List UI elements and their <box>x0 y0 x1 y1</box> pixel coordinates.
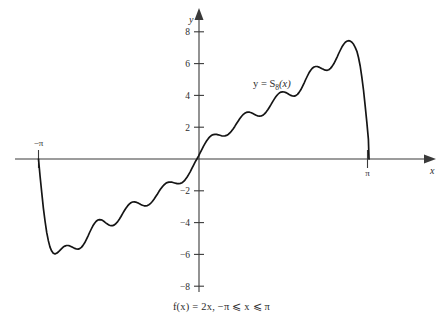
y-tick-label-neg6: −6 <box>180 250 190 260</box>
y-tick-label-neg4: −4 <box>180 218 190 228</box>
y-tick-label-8: 8 <box>185 27 190 37</box>
y-tick-label-2: 2 <box>185 123 190 133</box>
x-axis-label: x <box>429 165 435 176</box>
x-tick-label-pi: π <box>365 168 370 178</box>
curve-label-tail: (x) <box>279 78 291 89</box>
y-axis-arrowhead <box>195 8 204 20</box>
curve-label-head: y = S <box>253 78 275 89</box>
plot-svg: 8 6 4 2 −2 −4 −6 −8 −π π x y <box>0 0 443 332</box>
fourier-partial-sum-curve <box>39 41 370 254</box>
x-tick-label-neg-pi: −π <box>34 138 44 148</box>
fourier-series-figure: 8 6 4 2 −2 −4 −6 −8 −π π x y y = S8(x) f… <box>0 0 443 332</box>
y-tick-label-neg8: −8 <box>180 282 190 292</box>
y-axis-label: y <box>188 14 194 25</box>
curve-label: y = S8(x) <box>253 78 291 92</box>
y-tick-label-4: 4 <box>185 91 190 101</box>
x-axis-arrowhead <box>424 155 436 164</box>
figure-caption: f(x) = 2x, −π ⩽ x ⩽ π <box>0 300 443 312</box>
y-tick-label-neg2: −2 <box>180 186 190 196</box>
y-tick-label-6: 6 <box>185 59 190 69</box>
